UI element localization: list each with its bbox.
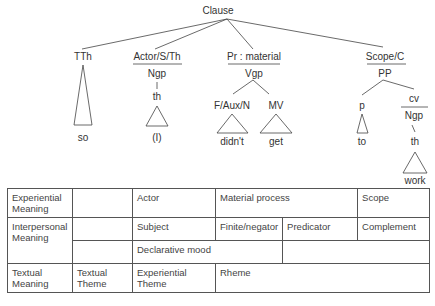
cell-experiential-theme: Experiential Theme: [133, 264, 216, 293]
node-completive-form: Ngp: [405, 110, 424, 121]
cell-finite-negator: Finite/negator: [216, 218, 283, 241]
cell-empty: [73, 241, 133, 264]
metafunction-table: Experiential Meaning Actor Material proc…: [7, 188, 430, 293]
cell-actor: Actor: [133, 189, 216, 218]
clause-tree-diagram: Clause TTh so Actor/S/Th Ngp th (I) Pr :…: [0, 0, 435, 185]
node-clause: Clause: [202, 5, 234, 16]
node-completive: cv: [409, 93, 419, 104]
cell-complement: Complement: [358, 218, 430, 241]
label-interpersonal-meaning: Interpersonal Meaning: [8, 218, 73, 264]
node-tth: TTh: [74, 51, 92, 62]
cell-empty: [73, 189, 133, 218]
node-scope-function: Scope/C: [366, 51, 404, 62]
row-textual: Textual Meaning Textual Theme Experienti…: [8, 264, 430, 293]
cell-rheme: Rheme: [216, 264, 430, 293]
cell-scope: Scope: [358, 189, 430, 218]
cell-declarative-mood: Declarative mood: [133, 241, 283, 264]
cell-material-process: Material process: [216, 189, 358, 218]
cell-textual-theme: Textual Theme: [73, 264, 133, 293]
word-i: (I): [152, 132, 161, 143]
word-didnt: didn't: [220, 136, 244, 147]
row-experiential: Experiential Meaning Actor Material proc…: [8, 189, 430, 218]
cell-predicator: Predicator: [283, 218, 358, 241]
node-scope-form: PP: [378, 68, 392, 79]
node-preposition: p: [359, 100, 365, 111]
node-actor-thing: th: [153, 91, 161, 102]
node-completive-thing: th: [411, 136, 419, 147]
row-interpersonal: Interpersonal Meaning Subject Finite/neg…: [8, 218, 430, 241]
node-process-function: Pr : material: [227, 51, 281, 62]
cell-empty: [73, 218, 133, 241]
cell-empty: [283, 241, 430, 264]
node-actor-form: Ngp: [148, 68, 167, 79]
node-finite-aux: F/Aux/N: [214, 100, 250, 111]
node-main-verb: MV: [269, 100, 284, 111]
cell-subject: Subject: [133, 218, 216, 241]
word-so: so: [78, 132, 89, 143]
label-experiential-meaning: Experiential Meaning: [8, 189, 73, 218]
word-get: get: [269, 136, 283, 147]
node-actor-function: Actor/S/Th: [133, 51, 180, 62]
node-process-form: Vgp: [245, 68, 263, 79]
label-textual-meaning: Textual Meaning: [8, 264, 73, 293]
word-work: work: [403, 175, 426, 185]
word-to: to: [358, 136, 367, 147]
